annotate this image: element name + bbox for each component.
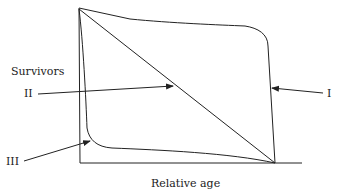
arrow-ii [38, 86, 173, 94]
x-axis-label: Relative age [151, 178, 220, 189]
survivorship-diagram [0, 0, 339, 196]
arrow-i [272, 88, 323, 93]
y-axis-label: Survivors [11, 66, 64, 77]
curve-label-i: I [327, 88, 331, 99]
curve-ii [79, 9, 275, 163]
curve-label-iii: III [6, 156, 19, 167]
y-axis [79, 8, 80, 163]
curve-label-ii: II [24, 88, 33, 99]
